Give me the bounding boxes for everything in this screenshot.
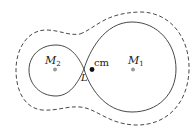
m1-label-main: M [128, 54, 139, 67]
outer-dashed-equipotential [16, 12, 189, 125]
m2-label-main: M [45, 54, 56, 67]
m1-label: M1 [128, 55, 144, 66]
m1-mass-dot [131, 68, 135, 72]
m2-label: M2 [45, 55, 61, 66]
m1-label-subscript: 1 [139, 60, 143, 68]
cm-label: cm [94, 58, 109, 68]
m2-label-subscript: 2 [56, 60, 60, 68]
lagrange-point-label: L [81, 73, 88, 83]
m2-mass-dot [53, 68, 57, 72]
